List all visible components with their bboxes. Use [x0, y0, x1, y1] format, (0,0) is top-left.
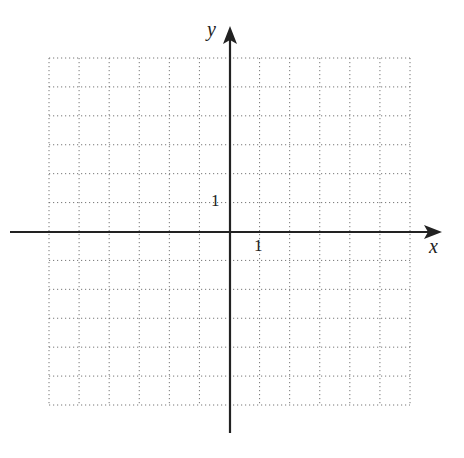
x-tick-label: 1 [254, 236, 263, 256]
y-tick-label: 1 [211, 191, 220, 211]
coordinate-plane [0, 0, 464, 458]
x-axis-label: x [429, 235, 438, 258]
y-axis-label: y [207, 18, 216, 41]
